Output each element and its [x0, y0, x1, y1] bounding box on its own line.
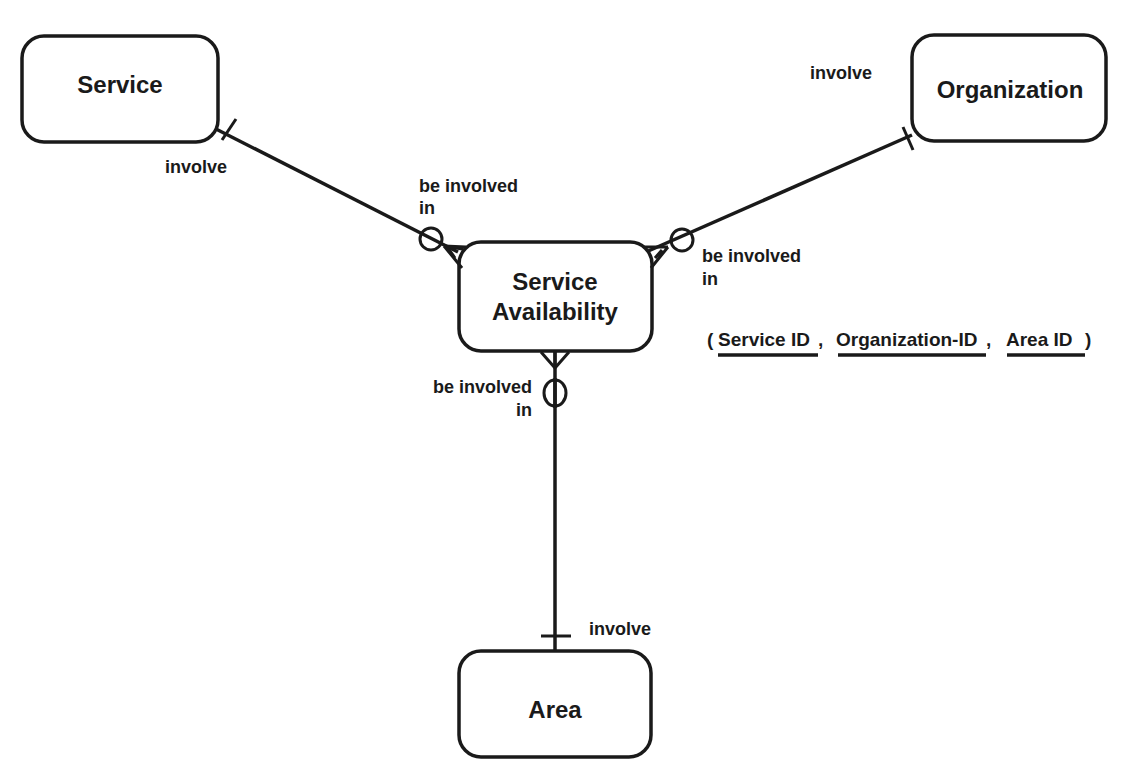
entity-service-availability[interactable]: Service Availability: [459, 242, 652, 351]
area-be-involved-label-line2: in: [516, 400, 532, 420]
entity-area[interactable]: Area: [459, 651, 651, 757]
service-involve-label: involve: [165, 157, 227, 177]
entity-service-availability-label-line1: Service: [512, 268, 597, 295]
entity-service-availability-label-line2: Availability: [492, 298, 618, 325]
key-part-organization-id: Organization-ID: [836, 329, 977, 350]
crows-foot-many-icon-bottom: [541, 352, 569, 368]
entity-organization[interactable]: Organization: [912, 35, 1106, 141]
organization-relationship-line: [646, 135, 912, 252]
organization-be-involved-label-line1: be involved: [702, 246, 801, 266]
entity-area-label: Area: [528, 696, 582, 723]
key-separator-1: ,: [818, 329, 823, 350]
entity-service-label: Service: [77, 71, 162, 98]
key-open-paren: (: [707, 329, 714, 350]
key-close-paren: ): [1085, 329, 1091, 350]
organization-be-involved-label-line2: in: [702, 269, 718, 289]
key-separator-2: ,: [986, 329, 991, 350]
er-diagram: Service Organization Service Availabilit…: [0, 0, 1128, 782]
key-part-service-id: Service ID: [718, 329, 810, 350]
key-part-area-id: Area ID: [1006, 329, 1073, 350]
entity-service[interactable]: Service: [22, 36, 218, 142]
area-be-involved-label-line1: be involved: [433, 377, 532, 397]
service-be-involved-label-line2: in: [419, 198, 435, 218]
composite-key-annotation: ( Service ID , Organization-ID , Area ID…: [707, 329, 1091, 355]
service-be-involved-label-line1: be involved: [419, 176, 518, 196]
area-involve-label: involve: [589, 619, 651, 639]
organization-involve-label: involve: [810, 63, 872, 83]
entity-organization-label: Organization: [937, 76, 1084, 103]
